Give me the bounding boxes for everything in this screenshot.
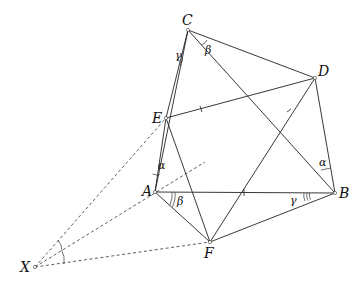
- angle-label-alpha-A: α: [158, 159, 166, 172]
- segment-FD: [210, 78, 315, 242]
- tick-mark-CB: [287, 109, 291, 112]
- label-F: F: [203, 245, 215, 261]
- angle-label-beta-C: β: [204, 44, 211, 57]
- hexagon-diagram: α β α γ γ β C D E A B F X: [0, 0, 362, 289]
- angle-arc-beta-A-2: [173, 192, 176, 207]
- tick-marks: [200, 106, 291, 196]
- segment-EF: [166, 118, 210, 242]
- label-A: A: [140, 183, 152, 199]
- point-A: [153, 190, 156, 193]
- vertex-points: [33, 28, 336, 268]
- angle-label-gamma-C: γ: [175, 49, 182, 62]
- vertex-labels: C D E A B F X: [19, 12, 349, 275]
- label-C: C: [182, 12, 193, 28]
- segment-CE: [166, 30, 188, 118]
- angle-arc-X-2: [62, 251, 64, 264]
- point-B: [333, 191, 336, 194]
- angle-arc-X-1: [58, 240, 62, 251]
- angle-arc-double-B-2: [309, 193, 310, 200]
- segment-AB: [155, 192, 335, 193]
- segment-ED: [166, 78, 315, 118]
- segment-BD: [315, 78, 335, 193]
- angle-label-alpha-B: α: [319, 156, 327, 169]
- label-X: X: [19, 259, 31, 275]
- point-E: [164, 116, 167, 119]
- angle-arc-beta-A-1: [170, 192, 172, 205]
- angle-arc-double-B-1: [307, 193, 308, 201]
- point-X: [33, 265, 36, 268]
- angle-arc-gamma-B: [304, 193, 305, 201]
- angle-label-beta-A: β: [176, 195, 183, 208]
- label-D: D: [317, 63, 329, 79]
- label-E: E: [151, 110, 162, 126]
- point-D: [313, 76, 316, 79]
- angle-label-gamma-B: γ: [290, 194, 297, 207]
- angle-labels: α β α γ γ β: [158, 44, 327, 208]
- segment-FB: [210, 193, 335, 242]
- label-B: B: [338, 185, 349, 201]
- angle-arcs: [58, 40, 331, 264]
- point-F: [208, 240, 211, 243]
- point-C: [186, 28, 189, 31]
